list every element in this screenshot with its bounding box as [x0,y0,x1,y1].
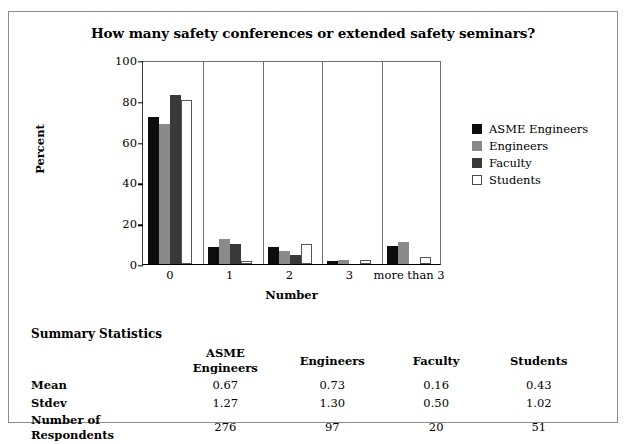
table-cell: 20 [386,412,487,444]
table-column-header: Students [487,345,591,377]
bar [181,100,192,264]
bar-group [387,62,431,264]
table-cell: 0.16 [386,377,487,394]
legend-label: Engineers [489,139,548,153]
y-tick-mark [138,61,143,62]
table-cell: 1.02 [487,395,591,412]
plot-area: 020406080100 0123more than 3 [142,61,441,265]
table-column-header: Faculty [386,345,487,377]
y-tick-mark [138,143,143,144]
chart-block: Percent 020406080100 0123more than 3 Num… [9,12,619,312]
table-header-row: ASME EngineersEngineersFacultyStudents [31,345,591,377]
bar [279,251,290,264]
table-row: Stdev1.271.300.501.02 [31,395,591,412]
x-tick-label: more than 3 [374,268,445,282]
table-row-header: Stdev [31,395,172,412]
bar-group [268,62,312,264]
table-body: Mean0.670.730.160.43Stdev1.271.300.501.0… [31,377,591,444]
bar [398,242,409,264]
category-divider [382,62,383,264]
legend-swatch-icon [472,124,482,134]
bar [290,255,301,264]
table-row-header: Mean [31,377,172,394]
bar [170,95,181,264]
y-tick-label: 20 [107,219,137,231]
bar [208,247,219,264]
table-column-header: ASME Engineers [172,345,279,377]
x-tick-label: 2 [286,268,293,282]
legend-item: Faculty [472,154,588,171]
category-divider [203,62,204,264]
legend-label: Faculty [489,156,532,170]
bar [387,246,398,264]
x-tick-label: 0 [166,268,173,282]
y-tick-mark [138,184,143,185]
bar [338,260,349,264]
summary-statistics-section: Summary Statistics ASME EngineersEnginee… [31,327,601,444]
x-axis-label: Number [142,288,441,302]
legend-item: Engineers [472,137,588,154]
table-cell: 1.27 [172,395,279,412]
table-cell: 51 [487,412,591,444]
summary-heading: Summary Statistics [31,327,601,341]
bar-group [327,62,371,264]
bar [327,261,338,264]
y-tick-label: 100 [107,56,137,68]
bar-group [208,62,252,264]
y-tick-label: 80 [107,97,137,109]
bar [148,117,159,264]
bar [241,261,252,264]
table-row: Mean0.670.730.160.43 [31,377,591,394]
y-tick-label: 0 [107,260,137,272]
bar [230,244,241,264]
category-divider [322,62,323,264]
summary-statistics-table: ASME EngineersEngineersFacultyStudents M… [31,345,591,444]
table-row: Number of Respondents276972051 [31,412,591,444]
category-divider [263,62,264,264]
figure-frame: How many safety conferences or extended … [8,11,618,423]
table-cell: 97 [279,412,386,444]
bar [301,244,312,264]
bar [219,239,230,265]
y-axis-label: Percent [33,94,47,204]
legend-label: Students [489,173,541,187]
table-cell: 0.73 [279,377,386,394]
bar-group [148,62,192,264]
chart-legend: ASME EngineersEngineersFacultyStudents [472,120,588,188]
legend-item: Students [472,171,588,188]
bar [420,257,431,264]
bar [159,124,170,264]
legend-swatch-icon [472,158,482,168]
y-tick-label: 40 [107,179,137,191]
table-row-header: Number of Respondents [31,412,172,444]
table-column-header: Engineers [279,345,386,377]
x-tick-label: 1 [226,268,233,282]
table-cell: 0.67 [172,377,279,394]
table-corner-cell [31,345,172,377]
legend-swatch-icon [472,141,482,151]
y-tick-label: 60 [107,138,137,150]
table-cell: 0.43 [487,377,591,394]
x-tick-label: 3 [346,268,353,282]
bar [268,247,279,264]
table-cell: 1.30 [279,395,386,412]
y-tick-mark [138,224,143,225]
legend-swatch-icon [472,175,482,185]
bar [360,260,371,264]
table-cell: 276 [172,412,279,444]
legend-item: ASME Engineers [472,120,588,137]
y-tick-mark [138,102,143,103]
y-tick-mark [138,265,143,266]
table-cell: 0.50 [386,395,487,412]
legend-label: ASME Engineers [489,122,588,136]
